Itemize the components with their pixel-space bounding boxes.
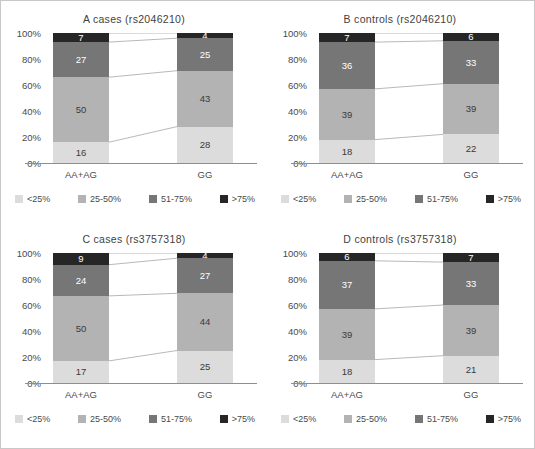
bar-segment-value: 17 [76,367,87,377]
plot-area: 17502492544274 [45,253,241,383]
connector-line [109,293,177,296]
y-axis-tick: 20% [22,132,41,143]
bar-segment-value: 16 [76,148,87,158]
legend-item[interactable]: <25% [281,195,316,204]
panel-title: B controls (rs2046210) [267,13,533,25]
y-axis-tick: 100% [283,248,307,259]
bar-segment-value: 6 [344,253,349,261]
legend-label: <25% [27,415,50,424]
stacked-bar-gg: 2239336 [443,33,499,163]
legend-label: >75% [232,415,255,424]
x-axis-category-labels: AA+AGGG [45,169,241,185]
legend-item[interactable]: 51-75% [415,195,458,204]
stacked-bar-gg: 2843254 [177,33,233,163]
chart-panel-c: C cases (rs3757318)100%80%60%40%20%0%175… [1,225,267,437]
bar-segment-value: 27 [200,271,211,281]
bar-segment-value: 39 [342,110,353,120]
bar-segment-value: 36 [342,61,353,71]
bar-segment: 37 [319,261,375,309]
bar-segment-value: 33 [466,279,477,289]
legend-swatch-icon [486,415,494,423]
legend-label: 25-50% [356,415,387,424]
y-axis-tick: 20% [22,352,41,363]
legend-item[interactable]: 51-75% [149,195,192,204]
legend-item[interactable]: 25-50% [78,415,121,424]
legend-label: >75% [232,195,255,204]
plot-area: 16502772843254 [45,33,241,163]
legend-item[interactable]: <25% [281,415,316,424]
y-axis-tick-labels: 100%80%60%40%20%0% [1,33,41,163]
legend-item[interactable]: <25% [15,415,50,424]
panel-title: A cases (rs2046210) [1,13,267,25]
bar-segment-value: 24 [76,276,87,286]
y-axis-tick: 80% [288,274,307,285]
y-axis-tick: 80% [22,54,41,65]
bar-segment: 43 [177,71,233,127]
legend-swatch-icon [15,195,23,203]
legend-swatch-icon [149,195,157,203]
chart-panel-d: D controls (rs3757318)100%80%60%40%20%0%… [267,225,533,437]
y-axis-tick-labels: 100%80%60%40%20%0% [1,253,41,383]
bar-segment: 39 [443,84,499,135]
panel-row-bottom: C cases (rs3757318)100%80%60%40%20%0%175… [1,225,534,437]
legend-item[interactable]: 25-50% [344,415,387,424]
stacked-bar-aa-ag: 1839367 [319,33,375,163]
connector-line [375,41,443,42]
bar-segment: 7 [53,33,109,42]
bar-segment: 6 [319,253,375,261]
bar-segment: 50 [53,77,109,142]
legend-label: 51-75% [161,415,192,424]
x-axis-tick: GG [464,169,479,180]
bar-segment: 4 [177,253,233,258]
stacked-bar-aa-ag: 1650277 [53,33,109,163]
bar-segment: 39 [319,309,375,360]
legend-item[interactable]: >75% [486,415,521,424]
legend-item[interactable]: 51-75% [415,415,458,424]
bar-segment-value: 50 [76,105,87,115]
y-axis-tick-labels: 100%80%60%40%20%0% [267,33,307,163]
bar-segment: 17 [53,361,109,383]
y-axis-tick: 60% [22,300,41,311]
bar-segment: 22 [443,134,499,163]
bar-segment: 18 [319,360,375,383]
legend-label: <25% [293,195,316,204]
legend-item[interactable]: >75% [486,195,521,204]
stacked-bar-gg: 2139337 [443,253,499,383]
bar-segment-value: 22 [466,144,477,154]
legend-item[interactable]: 25-50% [78,195,121,204]
legend-item[interactable]: >75% [220,415,255,424]
legend-item[interactable]: 25-50% [344,195,387,204]
bar-segment: 27 [177,258,233,293]
x-axis-baseline [25,163,257,164]
legend-swatch-icon [415,195,423,203]
bar-segment-value: 43 [200,94,211,104]
legend-label: >75% [498,415,521,424]
bar-segment: 4 [177,33,233,38]
y-axis-tick: 100% [17,248,41,259]
legend-swatch-icon [344,415,352,423]
x-axis-tick: AA+AG [331,389,363,400]
bar-segment-value: 33 [466,58,477,68]
figure-panel-grid: A cases (rs2046210)100%80%60%40%20%0%165… [0,0,535,449]
stacked-bar-aa-ag: 1839376 [319,253,375,383]
connector-line [109,258,177,265]
legend-label: 51-75% [427,195,458,204]
bar-segment-value: 18 [342,367,353,377]
y-axis-tick: 60% [22,80,41,91]
legend-swatch-icon [15,415,23,423]
legend-swatch-icon [344,195,352,203]
bar-segment: 36 [319,42,375,89]
bar-segment: 7 [319,33,375,42]
bar-segment-value: 18 [342,147,353,157]
legend-item[interactable]: <25% [15,195,50,204]
legend-item[interactable]: >75% [220,195,255,204]
bar-segment: 6 [443,33,499,41]
bar-segment: 50 [53,296,109,361]
chart-legend: <25%25-50%51-75%>75% [9,411,261,427]
x-axis-baseline [291,163,523,164]
legend-item[interactable]: 51-75% [149,415,192,424]
bar-segment: 16 [53,142,109,163]
bar-segment: 28 [177,127,233,163]
bar-segment: 21 [443,356,499,383]
bar-segment-value: 9 [78,254,83,264]
